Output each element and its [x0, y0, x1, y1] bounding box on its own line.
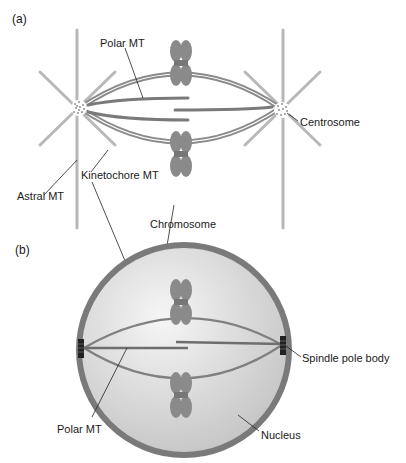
centrosome-right	[274, 102, 290, 118]
polar-mt	[88, 98, 272, 120]
label-nucleus: Nucleus	[261, 429, 301, 441]
spindle-pole-body-left	[78, 339, 84, 358]
panel-b-nucleus	[78, 245, 301, 455]
label-chromosome: Chromosome	[150, 218, 216, 230]
label-spindle-pole-body: Spindle pole body	[302, 352, 389, 364]
astral-mt-right	[245, 30, 320, 228]
chromosome-top-a	[170, 40, 192, 86]
label-polar-mt-b: Polar MT	[57, 423, 102, 435]
label-centrosome: Centrosome	[300, 116, 360, 128]
nucleus-envelope	[79, 245, 289, 455]
panel-b-label: (b)	[15, 243, 30, 257]
chromosome-bottom-a	[170, 131, 192, 177]
mitotic-spindle-diagram	[0, 0, 406, 463]
spindle-pole-body-right	[280, 336, 286, 355]
centrosome-left	[71, 100, 87, 116]
label-kinetochore-mt: Kinetochore MT	[81, 169, 159, 181]
label-polar-mt-a: Polar MT	[100, 37, 145, 49]
label-astral-mt: Astral MT	[17, 190, 64, 202]
panel-a-label: (a)	[12, 12, 27, 26]
